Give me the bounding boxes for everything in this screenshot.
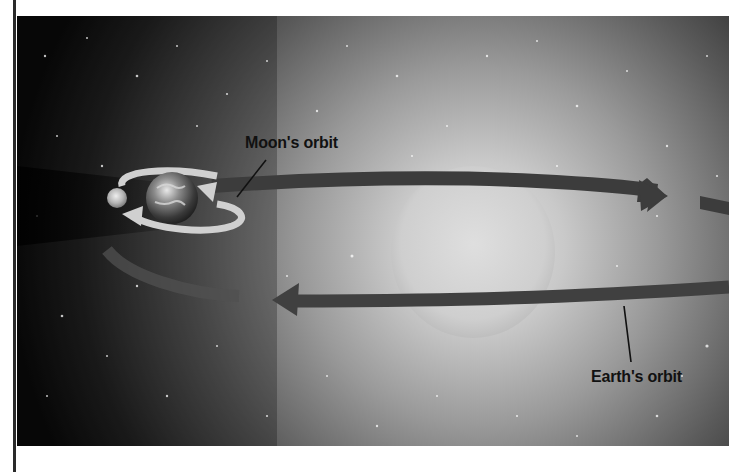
sun xyxy=(391,166,555,338)
orbit-illustration: Moon's orbit Earth's orbit xyxy=(17,16,729,446)
left-border-rule xyxy=(13,0,16,472)
earth-orbit-label: Earth's orbit xyxy=(591,368,682,386)
moon xyxy=(107,188,127,208)
moon-orbit-label: Moon's orbit xyxy=(245,134,338,152)
earth xyxy=(146,172,198,224)
